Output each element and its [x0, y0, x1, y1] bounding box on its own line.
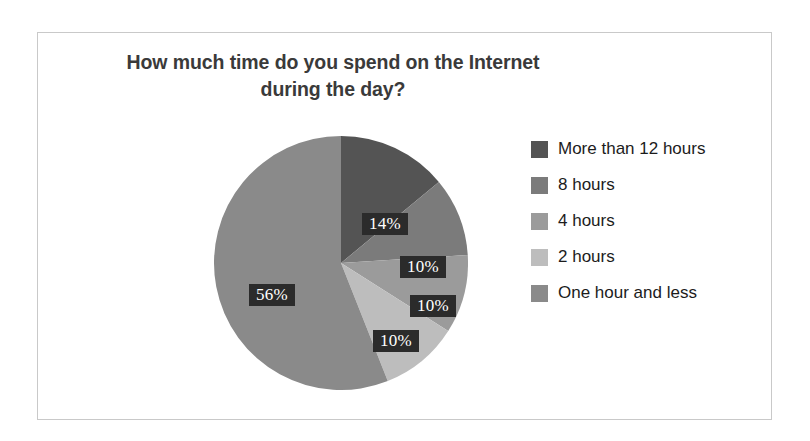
pie-slice-value-label: 10%	[373, 330, 419, 352]
chart-title-line-2: during the day?	[98, 76, 568, 103]
legend-item[interactable]: 8 hours	[531, 167, 781, 203]
legend-item[interactable]: 2 hours	[531, 239, 781, 275]
legend-swatch-icon	[531, 177, 548, 194]
legend-swatch-icon	[531, 141, 548, 158]
legend-item[interactable]: 4 hours	[531, 203, 781, 239]
chart-legend: More than 12 hours8 hours4 hours2 hoursO…	[531, 131, 781, 311]
chart-title-line-1: How much time do you spend on the Intern…	[98, 49, 568, 76]
legend-swatch-icon	[531, 249, 548, 266]
legend-swatch-icon	[531, 285, 548, 302]
pie-slice-value-label: 10%	[400, 256, 446, 278]
legend-item[interactable]: More than 12 hours	[531, 131, 781, 167]
legend-item-label: One hour and less	[558, 283, 697, 303]
chart-title: How much time do you spend on the Intern…	[98, 49, 568, 103]
chart-frame: How much time do you spend on the Intern…	[37, 32, 772, 420]
legend-item-label: 4 hours	[558, 211, 615, 231]
legend-item-label: 8 hours	[558, 175, 615, 195]
pie-slice-value-label: 14%	[362, 213, 408, 235]
pie-slice-value-label: 56%	[249, 284, 295, 306]
legend-swatch-icon	[531, 213, 548, 230]
legend-item-label: More than 12 hours	[558, 139, 705, 159]
legend-item[interactable]: One hour and less	[531, 275, 781, 311]
pie-chart: 14%10%10%10%56%	[214, 136, 468, 390]
pie-slice-value-label: 10%	[410, 295, 456, 317]
legend-item-label: 2 hours	[558, 247, 615, 267]
